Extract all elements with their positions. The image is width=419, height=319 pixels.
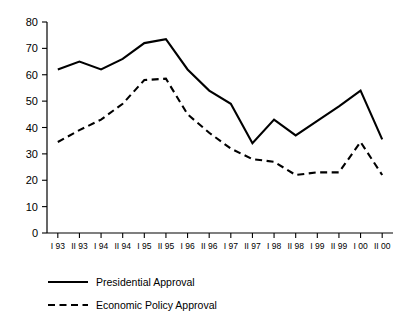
y-axis-ticks <box>42 22 47 233</box>
x-tick-label: I 00 <box>353 241 367 251</box>
x-tick-label: II 95 <box>158 241 175 251</box>
y-tick-label: 40 <box>26 122 38 134</box>
chart-container: 01020304050607080 I 93II 93I 94II 94I 95… <box>0 0 419 319</box>
y-tick-label: 20 <box>26 174 38 186</box>
y-tick-label: 50 <box>26 95 38 107</box>
y-tick-label: 60 <box>26 69 38 81</box>
y-tick-label: 30 <box>26 148 38 160</box>
x-tick-label: II 94 <box>114 241 131 251</box>
legend-item-presidential-approval: Presidential Approval <box>48 276 195 288</box>
y-axis-tick-labels: 01020304050607080 <box>26 16 38 239</box>
x-axis: I 93II 93I 94II 94I 95II 95I 96II 96I 97… <box>47 233 393 251</box>
legend-label-economic-policy-approval: Economic Policy Approval <box>96 299 217 311</box>
data-series-group <box>58 39 382 175</box>
x-tick-label: II 93 <box>71 241 88 251</box>
line-chart: 01020304050607080 I 93II 93I 94II 94I 95… <box>0 0 419 319</box>
x-tick-label: II 96 <box>201 241 218 251</box>
x-tick-label: II 98 <box>287 241 304 251</box>
legend-label-presidential-approval: Presidential Approval <box>96 276 195 288</box>
y-tick-label: 80 <box>26 16 38 28</box>
x-tick-label: I 93 <box>51 241 65 251</box>
y-tick-label: 10 <box>26 201 38 213</box>
y-axis: 01020304050607080 <box>26 16 47 239</box>
x-tick-label: II 00 <box>374 241 391 251</box>
y-tick-label: 0 <box>32 227 38 239</box>
chart-legend: Presidential Approval Economic Policy Ap… <box>48 276 217 311</box>
x-tick-label: II 97 <box>244 241 261 251</box>
x-tick-label: I 95 <box>137 241 151 251</box>
x-axis-ticks <box>58 233 382 238</box>
x-tick-label: I 99 <box>310 241 324 251</box>
series-economic-policy-approval-line <box>58 79 382 175</box>
y-tick-label: 70 <box>26 42 38 54</box>
x-axis-tick-labels: I 93II 93I 94II 94I 95II 95I 96II 96I 97… <box>51 241 391 251</box>
x-tick-label: I 96 <box>180 241 194 251</box>
legend-item-economic-policy-approval: Economic Policy Approval <box>48 299 217 311</box>
series-presidential-approval-line <box>58 39 382 143</box>
x-tick-label: I 94 <box>94 241 108 251</box>
x-tick-label: I 98 <box>267 241 281 251</box>
x-tick-label: II 99 <box>331 241 348 251</box>
x-tick-label: I 97 <box>224 241 238 251</box>
